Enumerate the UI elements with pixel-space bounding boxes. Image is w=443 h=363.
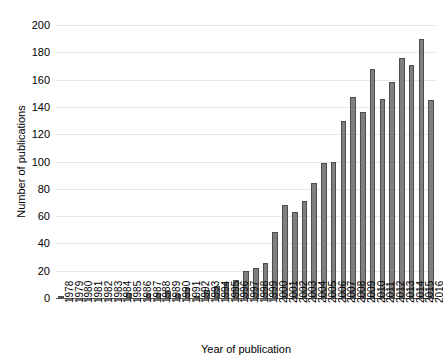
y-tick-label: 140 [32,101,50,112]
x-tick-label: 1978 [56,301,66,341]
x-tick-label: 2011 [377,301,387,341]
x-tick-label: 1984 [114,301,124,341]
gridline [56,80,436,81]
bar [341,121,347,298]
x-tick-label: 1986 [134,301,144,341]
bar [321,163,327,298]
y-axis-label: Number of publications [14,25,28,298]
x-tick-label: 2000 [270,301,280,341]
x-tick-label: 1988 [153,301,163,341]
bar [360,112,366,298]
x-tick-label: 1981 [85,301,95,341]
bar [370,69,376,298]
y-tick-label: 40 [38,238,50,249]
publications-bar-chart: Number of publications Year of publicati… [0,0,443,363]
y-tick-label: 20 [38,265,50,276]
y-tick-label: 100 [32,156,50,167]
x-tick-label: 2013 [397,301,407,341]
x-tick-label: 1987 [144,301,154,341]
x-tick-label: 2016 [426,301,436,341]
x-tick-label: 2010 [368,301,378,341]
x-tick-label: 1998 [251,301,261,341]
x-tick-label: 1997 [241,301,251,341]
plot-area: 020406080100120140160180200 [56,25,436,298]
bar [350,97,356,298]
x-tick-label: 1996 [231,301,241,341]
y-tick-label: 80 [38,183,50,194]
x-tick-label: 2002 [290,301,300,341]
bar [380,99,386,298]
x-tick-label: 1995 [222,301,232,341]
x-tick-label: 2004 [309,301,319,341]
x-tick-label: 2006 [329,301,339,341]
x-tick-label: 1989 [163,301,173,341]
x-tick-label: 1990 [173,301,183,341]
bar [399,58,405,298]
bar [389,82,395,298]
x-tick-label: 1979 [66,301,76,341]
x-tick-label: 2001 [280,301,290,341]
bar [331,162,337,299]
y-tick-label: 120 [32,129,50,140]
x-tick-label: 1982 [95,301,105,341]
x-tick-label: 2014 [407,301,417,341]
bar [419,39,425,298]
x-tick-label: 2008 [348,301,358,341]
x-tick-label: 2003 [299,301,309,341]
x-tick-label: 1991 [183,301,193,341]
x-tick-label: 2005 [319,301,329,341]
gridline [56,52,436,53]
x-tick-label: 1994 [212,301,222,341]
x-tick-label: 1992 [192,301,202,341]
x-tick-label: 2012 [387,301,397,341]
x-tick-label: 2007 [338,301,348,341]
y-tick-label: 200 [32,20,50,31]
x-axis-label: Year of publication [56,342,436,356]
y-tick-label: 0 [44,293,50,304]
bar [428,100,434,298]
x-tick-label: 1980 [75,301,85,341]
x-tick-label: 2009 [358,301,368,341]
gridline [56,25,436,26]
x-tick-label: 1983 [105,301,115,341]
y-tick-label: 160 [32,74,50,85]
x-tick-label: 2015 [416,301,426,341]
y-tick-label: 60 [38,211,50,222]
x-tick-label: 1993 [202,301,212,341]
x-tick-label: 1985 [124,301,134,341]
y-tick-label: 180 [32,47,50,58]
bar [409,65,415,298]
x-tick-label: 1999 [260,301,270,341]
